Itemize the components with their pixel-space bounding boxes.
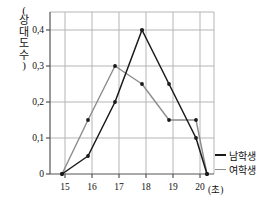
plot-area <box>0 0 278 214</box>
relative-frequency-line-chart: ( 상 대 도 수 ) 0,4 0,3 0,2 0,1 0 15 16 17 1… <box>0 0 278 214</box>
axis-lines <box>46 12 214 178</box>
grid-lines <box>50 12 214 174</box>
